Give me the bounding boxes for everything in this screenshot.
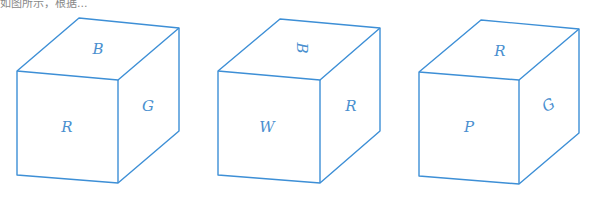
cube-1-front-label: R — [60, 118, 72, 136]
cube-3-front-label: P — [463, 118, 475, 136]
cube-3-top-label: R — [493, 42, 505, 60]
cube-1-top-label: B — [91, 40, 103, 58]
cube-2-side-label: R — [344, 97, 356, 115]
cube-1: B R G — [17, 18, 179, 183]
cube-1-side-label: G — [142, 97, 154, 115]
cube-2: B W R — [218, 19, 380, 183]
cube-2-front-label: W — [259, 118, 276, 136]
cube-2-inner-edges — [218, 28, 380, 80]
cube-diagram: B R G B W R R P G — [0, 0, 594, 197]
cube-3: R P G — [419, 20, 579, 184]
cube-2-top-label: B — [293, 41, 311, 53]
cube-3-side-label: G — [539, 94, 558, 116]
